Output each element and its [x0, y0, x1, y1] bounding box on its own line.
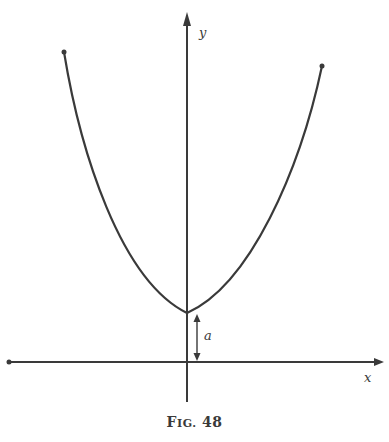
diagram-canvas [0, 0, 389, 442]
curve-right-end [320, 64, 325, 69]
y-axis-arrow-icon [183, 12, 191, 26]
offset-arrow-up-icon [194, 314, 201, 322]
offset-arrow-down-icon [194, 353, 201, 361]
offset-label: a [204, 328, 212, 343]
catenary-curve [64, 52, 322, 313]
caption-number: 48 [202, 414, 222, 430]
figure-caption: FIG. 48 [0, 414, 389, 430]
caption-prefix: F [167, 414, 177, 430]
x-axis-label: x [364, 370, 371, 385]
x-axis-arrow-icon [374, 358, 384, 366]
curve-left-end [62, 50, 67, 55]
x-axis-left-end [7, 360, 12, 365]
y-axis-label: y [199, 25, 206, 40]
caption-smallcaps: IG. [177, 417, 196, 430]
